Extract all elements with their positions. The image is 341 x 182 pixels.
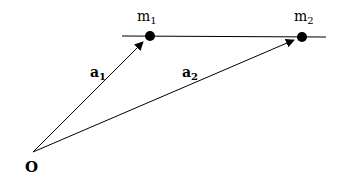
- origin-label: O: [25, 158, 38, 176]
- vector-a2-label: a2: [182, 64, 198, 82]
- mass-m1-dot: [145, 31, 155, 41]
- mass-m2-label: m2: [294, 8, 314, 26]
- mass-m1-label: m1: [137, 8, 157, 26]
- vector-a1-arrow: [33, 42, 143, 152]
- vector-a1-label: a1: [90, 64, 106, 82]
- vector-a2-arrow: [33, 40, 294, 152]
- mass-m2-dot: [297, 32, 307, 42]
- vector-diagram: m1 m2 a1 a2 O: [0, 0, 341, 182]
